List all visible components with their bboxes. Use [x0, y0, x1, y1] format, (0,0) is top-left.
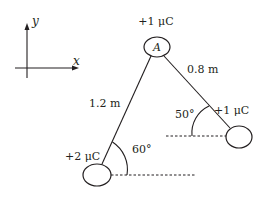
distance-A-left: 1.2 m: [89, 97, 121, 110]
x-axis-label: x: [73, 54, 80, 68]
y-axis-label: y: [31, 14, 39, 28]
left-angle-arc: [113, 142, 128, 175]
y-axis-arrow-icon: [25, 23, 30, 30]
charge-A-value: +1 μC: [138, 15, 173, 28]
charge-left-value: +2 μC: [65, 150, 100, 163]
charge-right-value: +1 μC: [214, 104, 249, 117]
angle-left-label: 60°: [132, 143, 152, 156]
angle-right-label: 50°: [175, 108, 195, 121]
coordinate-axes: [15, 23, 79, 78]
charge-left-circle: [83, 164, 111, 186]
charge-A-name: A: [152, 41, 161, 54]
charge-right-circle: [226, 126, 252, 148]
charge-diagram: y x A +1 μC +2 μC +1 μC 1.2 m 0.8 m 60° …: [0, 0, 263, 200]
distance-A-right: 0.8 m: [187, 63, 219, 76]
